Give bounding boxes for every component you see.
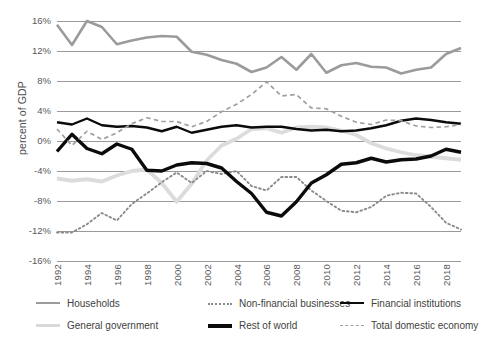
y-axis-tick: -4% <box>3 166 51 176</box>
legend-swatch-restofworld-icon <box>208 321 232 331</box>
plot-area <box>57 21 461 261</box>
y-axis-tick: -12% <box>3 226 51 236</box>
y-axis-tick: 8% <box>3 76 51 86</box>
legend-item-restofworld[interactable]: Rest of world <box>208 320 297 331</box>
x-axis-tick: 2018 <box>441 264 452 286</box>
x-axis-tick: 2012 <box>351 264 362 286</box>
x-axis-tick: 2004 <box>232 264 243 286</box>
x-axis-tick: 2000 <box>172 264 183 286</box>
legend-label: Households <box>67 298 120 309</box>
y-axis-tick: -8% <box>3 196 51 206</box>
legend-swatch-financial-icon <box>340 299 364 309</box>
legend-label: Financial institutions <box>371 298 461 309</box>
x-axis-tick: 2002 <box>202 264 213 286</box>
x-axis-tick: 2010 <box>321 264 332 286</box>
y-axis-tick: 4% <box>3 106 51 116</box>
x-axis-tick: 2006 <box>261 264 272 286</box>
x-axis-tick: 1994 <box>82 264 93 286</box>
series-line-general-government <box>57 127 461 202</box>
legend-swatch-totaldom-icon <box>340 321 364 331</box>
legend-swatch-government-icon <box>36 321 60 331</box>
legend-label: General government <box>67 320 158 331</box>
x-axis-tick-labels: 1992199419961998200020022004200620082010… <box>57 264 461 296</box>
legend-label: Non-financial businesses <box>239 298 350 309</box>
x-axis-tick: 2016 <box>411 264 422 286</box>
legend-swatch-nonfin-icon <box>208 299 232 309</box>
legend-item-nonfin[interactable]: Non-financial businesses <box>208 298 350 309</box>
chart-legend: HouseholdsNon-financial businessesFinanc… <box>18 296 468 340</box>
x-axis-tick: 1996 <box>112 264 123 286</box>
x-axis-tick: 1998 <box>142 264 153 286</box>
y-axis-tick: 12% <box>3 46 51 56</box>
y-axis-tick: 16% <box>3 16 51 26</box>
chart-figure: percent of GDP 16%12%8%4%0%-4%-8%-12%-16… <box>0 0 479 344</box>
legend-item-financial[interactable]: Financial institutions <box>340 298 461 309</box>
legend-item-government[interactable]: General government <box>36 320 158 331</box>
legend-label: Rest of world <box>239 320 297 331</box>
series-lines <box>57 21 461 261</box>
series-line-total-domestic-economy <box>57 82 461 146</box>
legend-item-households[interactable]: Households <box>36 298 120 309</box>
x-axis-tick: 1992 <box>52 264 63 286</box>
legend-item-totaldom[interactable]: Total domestic economy <box>340 320 478 331</box>
y-axis-tick-labels: 16%12%8%4%0%-4%-8%-12%-16% <box>3 21 51 261</box>
y-axis-tick: -16% <box>3 256 51 266</box>
legend-swatch-households-icon <box>36 299 60 309</box>
legend-label: Total domestic economy <box>371 320 478 331</box>
y-axis-tick: 0% <box>3 136 51 146</box>
gridline <box>57 261 461 262</box>
x-axis-tick: 2014 <box>381 264 392 286</box>
x-axis-tick: 2008 <box>291 264 302 286</box>
series-line-households <box>57 21 461 74</box>
